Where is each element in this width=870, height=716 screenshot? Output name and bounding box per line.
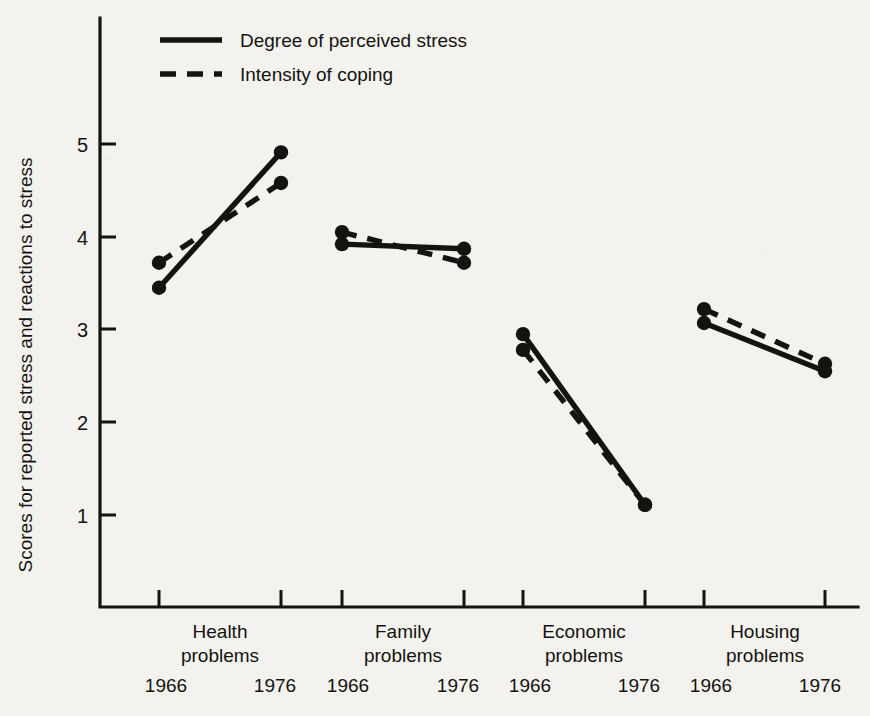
y-axis-title: Scores for reported stress and reactions… — [15, 157, 36, 572]
y-tick-label-1: 1 — [77, 505, 88, 527]
year-label-health-1976: 1976 — [254, 675, 296, 696]
data-point-dashed-health-1976 — [274, 176, 288, 190]
data-point-solid-health-1976 — [274, 145, 288, 159]
data-point-dashed-housing-1966 — [697, 302, 711, 316]
category-label-economic-line1: Economic — [542, 621, 625, 642]
data-point-solid-economic-1966 — [516, 327, 530, 341]
y-tick-label-5: 5 — [77, 134, 88, 156]
data-point-dashed-economic-1976 — [638, 498, 652, 512]
y-tick-label-4: 4 — [77, 227, 88, 249]
category-label-family-line2: problems — [364, 645, 442, 666]
data-point-solid-housing-1966 — [697, 316, 711, 330]
x-axis-ticks — [159, 590, 825, 607]
year-label-family-1966: 1966 — [327, 675, 369, 696]
data-point-solid-family-1976 — [457, 242, 471, 256]
plot-data-layer — [152, 145, 832, 512]
line-chart-svg: 5 4 3 2 1 Scores for reported stress and… — [0, 0, 870, 716]
axis-lines — [100, 18, 858, 607]
year-label-economic-1966: 1966 — [509, 675, 551, 696]
legend-label-intensity-coping: Intensity of coping — [240, 64, 393, 85]
data-point-dashed-housing-1976 — [818, 357, 832, 371]
chart-figure: 5 4 3 2 1 Scores for reported stress and… — [0, 0, 870, 716]
data-point-dashed-health-1966 — [152, 256, 166, 270]
y-axis-tick-labels: 5 4 3 2 1 — [77, 134, 88, 527]
data-point-dashed-economic-1966 — [516, 343, 530, 357]
series-dashed-segment-housing — [704, 309, 825, 364]
year-label-housing-1976: 1976 — [799, 675, 841, 696]
legend-label-perceived-stress: Degree of perceived stress — [240, 30, 467, 51]
data-point-solid-health-1966 — [152, 281, 166, 295]
data-point-dashed-family-1966 — [335, 225, 349, 239]
year-label-economic-1976: 1976 — [618, 675, 660, 696]
axes — [100, 18, 858, 607]
category-label-economic-line2: problems — [545, 645, 623, 666]
chart-legend: Degree of perceived stress Intensity of … — [160, 30, 467, 85]
y-tick-label-3: 3 — [77, 319, 88, 341]
series-dashed-segment-economic — [523, 350, 645, 505]
category-label-family-line1: Family — [375, 621, 431, 642]
x-axis-category-labels: Health problems Family problems Economic… — [181, 621, 804, 666]
x-axis-year-labels: 1966 1976 1966 1976 1966 1976 1966 1976 — [145, 675, 841, 696]
category-label-housing-line2: problems — [726, 645, 804, 666]
year-label-housing-1966: 1966 — [690, 675, 732, 696]
y-axis-ticks — [100, 144, 116, 515]
category-label-health-line2: problems — [181, 645, 259, 666]
series-solid-segment-housing — [704, 323, 825, 371]
category-label-housing-line1: Housing — [730, 621, 800, 642]
series-solid-segment-health — [159, 152, 281, 287]
category-label-health-line1: Health — [193, 621, 248, 642]
year-label-health-1966: 1966 — [145, 675, 187, 696]
data-point-dashed-family-1976 — [457, 256, 471, 270]
y-tick-label-2: 2 — [77, 412, 88, 434]
year-label-family-1976: 1976 — [437, 675, 479, 696]
